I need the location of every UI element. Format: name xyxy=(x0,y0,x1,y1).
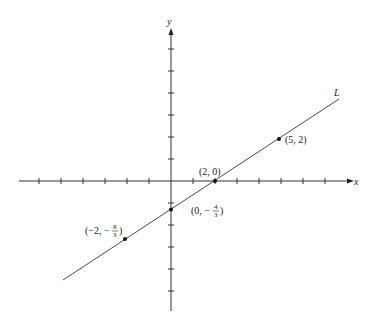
point-label-neg2-neg8-3: (−2, − 8 3 ) xyxy=(85,223,122,239)
svg-text:): ) xyxy=(220,205,223,217)
line-l xyxy=(63,99,339,280)
svg-text:(0, −: (0, − xyxy=(191,205,210,217)
x-axis-arrow-icon xyxy=(347,179,354,184)
point-label-5-2: (5, 2) xyxy=(285,134,307,146)
svg-text:3: 3 xyxy=(113,231,117,239)
y-axis-label: y xyxy=(166,16,172,27)
point-5-2 xyxy=(277,137,281,141)
svg-text:4: 4 xyxy=(214,203,218,211)
svg-text:): ) xyxy=(119,225,122,237)
svg-text:(−2, −: (−2, − xyxy=(85,225,110,237)
point-label-0-neg4-3: (0, − 4 3 ) xyxy=(191,203,223,219)
point-0-neg4-3 xyxy=(169,208,173,212)
point-2-0 xyxy=(213,179,217,183)
x-axis-label: x xyxy=(353,176,359,187)
point-neg2-neg8-3 xyxy=(123,237,127,241)
y-axis-arrow-icon xyxy=(169,28,174,35)
svg-text:3: 3 xyxy=(214,211,218,219)
point-label-2-0: (2, 0) xyxy=(199,166,221,178)
line-l-label: L xyxy=(333,87,340,98)
coordinate-plane: x y L (2, 0) (5 xyxy=(0,0,378,326)
svg-text:8: 8 xyxy=(113,223,117,231)
